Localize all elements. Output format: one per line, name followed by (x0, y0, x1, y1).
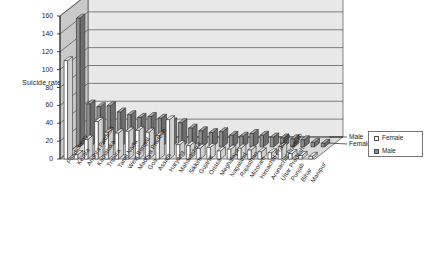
legend-label-male: Male (382, 148, 396, 154)
legend-item-male: Male (369, 145, 422, 158)
y-axis-tick-label: 20 (33, 137, 53, 144)
y-axis-tick-label: 100 (33, 66, 53, 73)
y-axis-tick-label: 0 (33, 155, 53, 162)
depth-axis-label-male: Male (349, 133, 363, 140)
legend-item-female: Female (369, 132, 422, 145)
y-axis-tick-label: 120 (33, 48, 53, 55)
y-axis-tick-label: 140 (33, 30, 53, 37)
y-axis-tick-label: 60 (33, 101, 53, 108)
chart-legend: Female Male (368, 131, 423, 157)
plot-area (0, 0, 437, 258)
legend-swatch-male-icon (374, 149, 379, 154)
y-axis-tick-label: 160 (33, 12, 53, 19)
y-axis-tick-label: 40 (33, 119, 53, 126)
legend-swatch-female-icon (374, 136, 379, 141)
legend-label-female: Female (382, 135, 403, 141)
y-axis-tick-label: 80 (33, 84, 53, 91)
suicide-rate-bar-chart: Suicide rate 020406080100120140160 Pondi… (0, 0, 437, 258)
